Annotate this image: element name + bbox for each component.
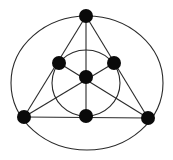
node-bottom-middle	[79, 109, 93, 123]
node-mid-left	[52, 56, 66, 70]
node-bottom-left	[17, 110, 31, 124]
node-bottom-right	[141, 111, 155, 125]
fano-plane-diagram	[0, 0, 173, 160]
node-mid-right	[107, 56, 121, 70]
node-top	[79, 9, 93, 23]
node-center	[79, 70, 93, 84]
